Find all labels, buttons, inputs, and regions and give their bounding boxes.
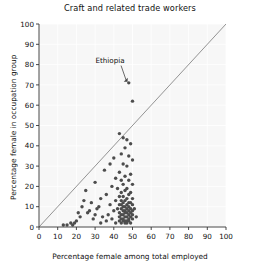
- y-axis-tick-label: 60: [25, 101, 35, 110]
- x-axis-tick-label: 0: [37, 232, 42, 241]
- x-axis-tick-label: 40: [109, 232, 119, 241]
- axes-layer: 0102030405060708090100010203040506070809…: [0, 0, 260, 269]
- x-axis-tick-label: 30: [91, 232, 101, 241]
- x-axis-label: Percentage female among total employed: [0, 252, 260, 261]
- x-axis-tick-label: 70: [165, 232, 175, 241]
- x-axis-tick-label: 60: [147, 232, 157, 241]
- y-axis-tick-label: 70: [25, 81, 35, 90]
- y-axis-tick-label: 90: [25, 40, 35, 49]
- y-axis-tick-label: 80: [25, 60, 35, 69]
- x-axis-tick-label: 100: [219, 232, 233, 241]
- y-axis-label: Percentage female in occupation group: [9, 55, 18, 200]
- y-axis-tick-label: 50: [25, 121, 35, 130]
- scatter-chart-figure: Craft and related trade workers Ethiopia…: [0, 0, 260, 269]
- y-axis-tick-label: 10: [25, 202, 35, 211]
- y-axis-tick-label: 0: [29, 223, 34, 232]
- x-axis-tick-label: 80: [184, 232, 194, 241]
- x-axis-tick-label: 90: [203, 232, 213, 241]
- y-axis-tick-label: 20: [25, 182, 35, 191]
- y-axis-tick-label: 40: [25, 141, 35, 150]
- x-axis-tick-label: 10: [53, 232, 63, 241]
- x-axis-tick-label: 20: [72, 232, 82, 241]
- y-axis-tick-label: 30: [25, 162, 35, 171]
- y-axis-tick-label: 100: [20, 20, 34, 29]
- x-axis-tick-label: 50: [128, 232, 138, 241]
